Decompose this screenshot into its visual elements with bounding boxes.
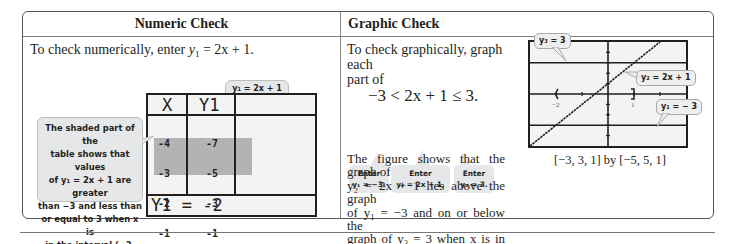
callout-line: in the interval (−2, 1]. — [38, 239, 142, 244]
callout-line: of y₁ = 2x + 1 are greater — [38, 174, 142, 200]
tick-label-1: 1 — [631, 101, 635, 109]
callout-line: table shows that values — [38, 148, 142, 174]
column-divider — [340, 12, 341, 218]
numeric-intro-text: To check numerically, enter — [30, 42, 189, 57]
graphic-explanation: The figure shows that the graph of y₂ = … — [347, 152, 505, 244]
calculator-table: X Y1 -4 -3 -2 -1 0 1 2 -7 -5 -3 -1 1 3 5… — [146, 93, 317, 217]
intro-eq: = 2x + 1. — [199, 42, 253, 57]
y1-cell: -5 — [206, 169, 230, 179]
numeric-check-header: Numeric Check — [23, 16, 340, 32]
shaded-explanation-callout: The shaded part of the table shows that … — [37, 117, 143, 202]
bottom-rule — [20, 232, 715, 233]
tick-label-neg2: −2 — [552, 101, 560, 109]
y1-cell: -1 — [206, 229, 230, 239]
col-y1-header: Y1 — [199, 96, 219, 114]
inequality: −3 < 2x + 1 ≤ 3. — [368, 87, 478, 105]
table-footer: Y1 = -2 — [151, 195, 223, 215]
explanation-line: of y₁ = −3 and on or below the — [347, 206, 505, 233]
callout-pointer-icon — [655, 113, 673, 129]
explanation-line: y₂ = 2x + 1 lies above the graph — [347, 179, 505, 206]
header-rule — [148, 114, 315, 116]
window-caption: [−3, 3, 1] by [−5, 5, 1] — [530, 153, 690, 168]
explanation-line: The figure shows that the graph of — [347, 152, 505, 179]
callout-pointer-icon — [550, 47, 570, 63]
callout-line: than −3 and less than — [38, 200, 142, 213]
graphic-intro-line: part of — [347, 72, 507, 87]
y1-values: -7 -5 -3 -1 1 3 5 — [206, 119, 230, 244]
graphic-intro: To check graphically, graph each part of — [347, 42, 507, 87]
x-cell: -4 — [158, 139, 182, 149]
callout-line: or equal to 3 when x is — [38, 213, 142, 239]
callout-pointer-icon — [625, 70, 638, 80]
col-x-header: X — [162, 96, 172, 114]
callout-pointer-icon — [142, 136, 156, 148]
graphic-check-header: Graphic Check — [348, 16, 439, 32]
col-rule — [234, 95, 236, 194]
graphic-intro-line: To check graphically, graph each — [347, 42, 507, 72]
numeric-intro: To check numerically, enter y1 = 2x + 1. — [30, 42, 254, 62]
y2-label-callout: y₂ = 2x + 1 — [636, 70, 696, 86]
x-cell: -1 — [158, 229, 182, 239]
callout-line: The shaded part of the — [38, 122, 142, 148]
x-values: -4 -3 -2 -1 0 1 2 — [158, 119, 182, 244]
y1-cell: -7 — [206, 139, 230, 149]
col-rule — [186, 95, 188, 194]
explanation-line: graph of y₃ = 3 when x is in the — [347, 232, 505, 244]
x-cell: -3 — [158, 169, 182, 179]
